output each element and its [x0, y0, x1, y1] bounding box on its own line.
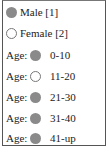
hollow-circle-icon — [30, 71, 41, 82]
hollow-circle-icon — [6, 28, 17, 39]
filled-circle-icon — [30, 50, 41, 61]
legend-item-age-31-40[interactable]: Age: 31-40 — [6, 109, 76, 127]
legend-item-age-0-10[interactable]: Age: 0-10 — [6, 46, 70, 64]
filled-circle-icon — [30, 133, 41, 144]
age-prefix: Age: — [6, 70, 30, 82]
age-prefix: Age: — [6, 91, 30, 103]
filled-circle-icon — [30, 113, 41, 124]
age-prefix: Age: — [6, 49, 30, 61]
age-range-label: 0-10 — [50, 49, 70, 61]
age-range-label: 11-20 — [50, 70, 75, 82]
age-range-label: 21-30 — [50, 91, 76, 103]
legend-panel: Male [1] Female [2] Age: 0-10 Age: 11-20… — [2, 0, 106, 146]
age-prefix: Age: — [6, 112, 30, 124]
legend-item-age-41-up[interactable]: Age: 41-up — [6, 129, 76, 147]
filled-circle-icon — [6, 7, 17, 18]
legend-label: Female [2] — [20, 27, 68, 39]
legend-item-male[interactable]: Male [1] — [6, 3, 58, 21]
legend-item-age-21-30[interactable]: Age: 21-30 — [6, 88, 76, 106]
filled-circle-icon — [30, 92, 41, 103]
legend-label: Male [1] — [20, 6, 58, 18]
age-prefix: Age: — [6, 132, 30, 144]
legend-item-age-11-20[interactable]: Age: 11-20 — [6, 67, 75, 85]
legend-item-female[interactable]: Female [2] — [6, 24, 68, 42]
age-range-label: 41-up — [50, 132, 76, 144]
age-range-label: 31-40 — [50, 112, 76, 124]
